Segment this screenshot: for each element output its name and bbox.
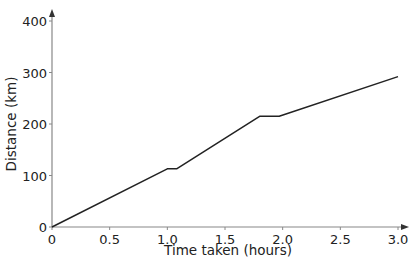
x-tick-label: 2.5 xyxy=(330,232,351,247)
x-tick-label: 3.0 xyxy=(388,232,409,247)
x-axis-arrow-icon xyxy=(401,224,409,230)
y-tick-label: 400 xyxy=(22,14,47,29)
plot-area xyxy=(52,77,398,227)
x-tick-label: 0.5 xyxy=(99,232,120,247)
distance-time-chart: 00.51.01.52.02.53.00100200300400 Time ta… xyxy=(0,0,414,263)
x-tick-label: 0 xyxy=(48,232,56,247)
y-axis-title: Distance (km) xyxy=(3,77,19,172)
y-tick-label: 200 xyxy=(22,117,47,132)
y-tick-label: 0 xyxy=(39,220,47,235)
axes xyxy=(49,9,409,230)
series-line xyxy=(52,77,398,227)
y-tick-label: 300 xyxy=(22,66,47,81)
x-axis-title: Time taken (hours) xyxy=(163,242,292,258)
y-axis-arrow-icon xyxy=(49,9,55,17)
y-tick-label: 100 xyxy=(22,169,47,184)
